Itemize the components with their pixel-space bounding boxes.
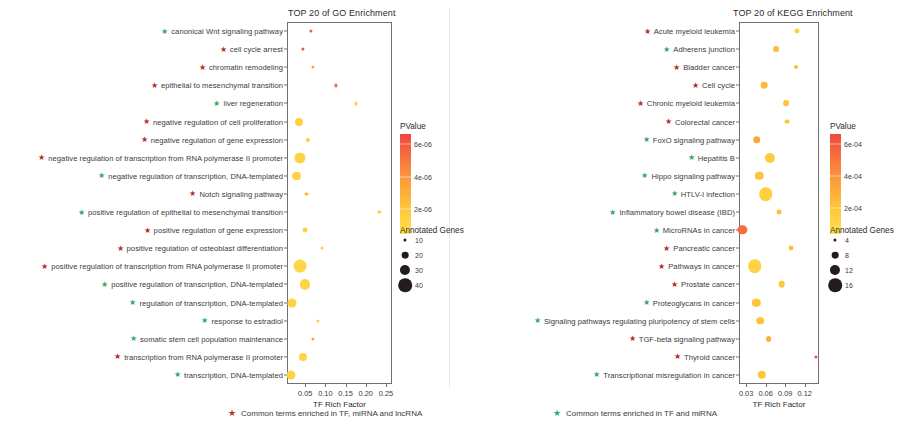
- kegg-colorbar-tick: [830, 208, 841, 209]
- kegg-term-text: Pathways in cancer: [668, 262, 735, 271]
- kegg-term-text: MicroRNAs in cancer: [663, 226, 735, 235]
- go-y-tick: [284, 121, 287, 122]
- go-term-text: epithelial to mesenchymal transition: [161, 81, 283, 90]
- kegg-colorbar-tick: [830, 175, 841, 176]
- go-y-tick: [284, 266, 287, 267]
- kegg-y-tick: [736, 175, 739, 176]
- kegg-pvalue-colorbar: [830, 134, 841, 234]
- green-star-icon: ★: [663, 45, 670, 53]
- go-pvalue-legend-title: PValue: [400, 122, 426, 131]
- kegg-y-tick: [736, 49, 739, 50]
- red-star-icon: ★: [644, 27, 651, 35]
- go-y-tick: [284, 67, 287, 68]
- go-term-label: ★negative regulation of transcription fr…: [38, 153, 283, 162]
- go-term-label: ★transcription, DNA-templated: [174, 370, 283, 379]
- kegg-term-label: ★Adherens junction: [663, 45, 735, 54]
- kegg-y-tick: [736, 248, 739, 249]
- go-y-tick: [284, 49, 287, 50]
- go-term-text: somatic stem cell population maintenance: [140, 334, 283, 343]
- go-term-text: negative regulation of cell proliferatio…: [153, 117, 283, 126]
- go-term-text: positive regulation of osteoblast differ…: [127, 244, 283, 253]
- go-term-label: ★negative regulation of cell proliferati…: [143, 117, 283, 126]
- kegg-term-label: ★Bladder cancer: [673, 63, 735, 72]
- kegg-term-text: Bladder cancer: [683, 63, 735, 72]
- red-star-icon: ★: [220, 45, 227, 53]
- red-star-icon: ★: [189, 190, 196, 198]
- go-x-tick-label: 0.20: [359, 389, 373, 398]
- kegg-term-label: ★Signaling pathways regulating pluripote…: [534, 316, 735, 325]
- go-x-tick: [366, 384, 367, 387]
- red-star-icon: ★: [663, 244, 670, 252]
- caption-text: Common terms enriched in TF and miRNA: [566, 409, 717, 418]
- go-term-label: ★epithelial to mesenchymal transition: [151, 81, 283, 90]
- go-term-label: ★cell cycle arrest: [220, 45, 283, 54]
- green-star-icon: ★: [98, 172, 105, 180]
- go-size-legend-dot: [400, 265, 410, 275]
- red-star-icon: ★: [144, 226, 151, 234]
- kegg-size-legend-dot: [828, 278, 842, 292]
- green-star-icon: ★: [688, 154, 695, 162]
- green-star-icon: ★: [643, 299, 650, 307]
- red-star-icon: ★: [673, 63, 680, 71]
- green-star-icon: ★: [213, 99, 220, 107]
- kegg-bubble: [776, 210, 781, 215]
- go-x-tick-label: 0.15: [338, 389, 352, 398]
- kegg-y-tick: [736, 85, 739, 86]
- go-y-tick: [284, 320, 287, 321]
- go-size-legend-label: 10: [415, 237, 423, 244]
- go-size-legend-dot: [403, 238, 406, 241]
- go-y-tick: [284, 175, 287, 176]
- kegg-colorbar-label: 4e-04: [844, 172, 862, 179]
- go-term-text: negative regulation of gene expression: [151, 135, 283, 144]
- go-pvalue-colorbar: [400, 134, 411, 234]
- go-term-text: positive regulation of transcription, DN…: [111, 280, 283, 289]
- green-star-icon: ★: [130, 335, 137, 343]
- red-star-icon: ★: [674, 353, 681, 361]
- green-star-icon: ★: [609, 208, 616, 216]
- red-star-icon: ★: [629, 335, 636, 343]
- kegg-y-tick: [736, 139, 739, 140]
- kegg-y-tick: [736, 266, 739, 267]
- kegg-x-tick: [766, 384, 767, 387]
- go-term-text: positive regulation of transcription fro…: [51, 262, 283, 271]
- go-panel-title: TOP 20 of GO Enrichment: [288, 8, 396, 18]
- kegg-term-text: Colorectal cancer: [675, 117, 735, 126]
- kegg-y-tick: [736, 302, 739, 303]
- go-term-text: positive regulation of epithelial to mes…: [88, 208, 283, 217]
- kegg-bubble: [778, 281, 785, 288]
- go-term-text: canonical Wnt signaling pathway: [171, 27, 283, 36]
- go-term-label: ★negative regulation of transcription, D…: [98, 171, 283, 180]
- go-y-tick: [284, 302, 287, 303]
- kegg-y-tick: [736, 103, 739, 104]
- go-term-label: ★negative regulation of gene expression: [141, 135, 283, 144]
- go-term-text: Notch signaling pathway: [200, 189, 283, 198]
- kegg-term-label: ★Transcriptional misregulation in cancer: [593, 370, 735, 379]
- kegg-y-tick: [736, 338, 739, 339]
- go-term-label: ★positive regulation of transcription, D…: [101, 280, 283, 289]
- go-size-legend-dot: [398, 278, 412, 292]
- kegg-term-label: ★Chronic myeloid leukemia: [637, 99, 735, 108]
- kegg-term-label: ★Acute myeloid leukemia: [644, 27, 735, 36]
- kegg-bubble: [759, 187, 773, 201]
- go-x-tick: [386, 384, 387, 387]
- go-bubble: [294, 260, 307, 273]
- go-x-tick: [305, 384, 306, 387]
- caption-item: ★Common terms enriched in TF and miRNA: [553, 409, 717, 418]
- kegg-y-tick: [736, 67, 739, 68]
- go-x-tick-label: 0.25: [379, 389, 393, 398]
- red-star-icon: ★: [671, 280, 678, 288]
- green-star-icon: ★: [161, 27, 168, 35]
- figure-caption: ★Common terms enriched in TF, miRNA and …: [0, 409, 905, 429]
- go-bubble: [303, 228, 308, 233]
- kegg-y-tick: [736, 356, 739, 357]
- kegg-term-label: ★Thyroid cancer: [674, 352, 735, 361]
- go-bubble: [299, 353, 307, 361]
- kegg-term-text: Hepatitis B: [698, 153, 735, 162]
- enrichment-figure: TOP 20 of GO Enrichment ★canonical Wnt s…: [0, 0, 905, 435]
- go-y-tick: [284, 103, 287, 104]
- red-star-icon: ★: [658, 262, 665, 270]
- go-x-tick: [346, 384, 347, 387]
- green-star-icon: ★: [553, 409, 561, 418]
- kegg-bubble: [766, 336, 772, 342]
- kegg-colorbar-tick: [830, 143, 841, 144]
